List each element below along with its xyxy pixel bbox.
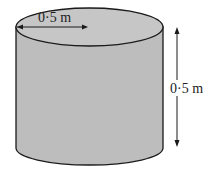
- height-label: 0·5 m: [170, 81, 203, 96]
- cylinder-diagram: 0·5 m 0·5 m: [0, 0, 213, 176]
- radius-label: 0·5 m: [38, 10, 71, 25]
- cylinder-body: [16, 27, 163, 165]
